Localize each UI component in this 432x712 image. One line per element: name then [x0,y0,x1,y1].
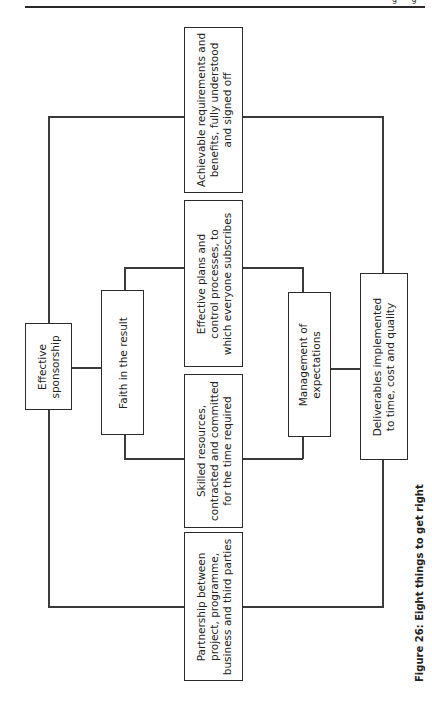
node-partnership: Partnership between project, programme, … [184,532,243,681]
connector-expectations-top [302,267,304,292]
connector-faith-to-plans [124,267,184,269]
connector-faith-bottom [124,435,126,459]
connector-left-to-achievable [48,116,184,118]
connector-expectations-deliverables [331,368,360,370]
connector-skilled-to-expectations [243,458,303,460]
connector-expectations-bottom [302,437,304,459]
node-effective-plans: Effective plans and control processes, t… [184,200,243,367]
node-skilled-resources: Skilled resources, contracted and commit… [184,374,243,528]
node-label: Effective sponsorship [36,323,62,410]
connector-sponsorship-faith [72,367,101,369]
connector-sponsorship-top [48,116,50,324]
node-management-of-expectations: Management of expectations [288,292,331,437]
node-label: Achievable requirements and benefits, fu… [194,27,233,193]
header-rule [25,6,425,8]
connector-deliverables-bottom [382,459,384,608]
connector-plans-to-expectations [243,267,303,269]
connector-achievable-to-right [243,116,383,118]
figure-caption: Figure 26: Eight things to get right [414,484,425,682]
node-label: Management of expectations [297,292,323,437]
node-achievable-requirements: Achievable requirements and benefits, fu… [184,27,243,193]
node-faith-in-result: Faith in the result [101,290,144,435]
node-label: Effective plans and control processes, t… [194,200,233,367]
node-label: Deliverables implemented to time, cost a… [371,273,397,460]
node-deliverables: Deliverables implemented to time, cost a… [360,273,408,460]
node-label: Faith in the result [116,290,129,435]
connector-faith-top [124,267,126,290]
connector-deliverables-top [382,116,384,274]
node-label: Skilled resources, contracted and commit… [194,374,233,528]
node-label: Partnership between project, programme, … [194,532,233,681]
connector-left-to-partnership [48,606,184,608]
connector-partnership-to-right [243,606,383,608]
connector-faith-to-skilled [124,458,184,460]
running-header-fragment: g g [392,0,423,4]
connector-sponsorship-bottom [48,409,50,608]
node-effective-sponsorship: Effective sponsorship [25,323,72,410]
